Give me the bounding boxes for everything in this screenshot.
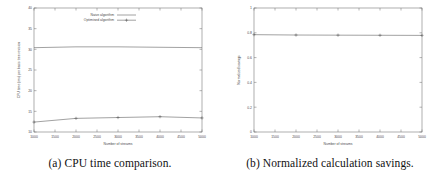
x-tick-label: 3500 (355, 135, 363, 139)
x-ticks-b (254, 8, 422, 132)
cpu-time-plot: 10152025303540 1000150020002500300035004… (10, 2, 210, 157)
series-marker (158, 115, 161, 118)
x-tick-label: 2500 (93, 135, 101, 139)
series-marker (32, 120, 35, 123)
y-tick-label: 15 (28, 110, 32, 114)
chart-a-content: 10152025303540 1000150020002500300035004… (17, 6, 206, 146)
series-marker (336, 34, 339, 37)
x-tick-label: 4000 (376, 135, 384, 139)
x-axis-title: Number of streams (324, 142, 353, 146)
x-tick-label: 2000 (72, 135, 80, 139)
cpu-time-chart-svg: 10152025303540 1000150020002500300035004… (10, 2, 210, 157)
y-tick-label: 20 (28, 89, 32, 93)
x-tick-label: 3500 (135, 135, 143, 139)
series-group-b (252, 33, 423, 37)
y-axis-title: CPU time (ms) per basis tree revision (17, 42, 21, 98)
x-tick-label: 3000 (114, 135, 122, 139)
y-tick-label: 0.6 (247, 56, 252, 60)
series-marker (420, 34, 423, 37)
x-tick-label: 4500 (177, 135, 185, 139)
savings-plot: 00.20.40.60.81 1000150020002500300035004… (230, 2, 430, 157)
plot-frame (34, 8, 202, 132)
series-group-a (32, 47, 203, 124)
savings-chart-svg: 00.20.40.60.81 1000150020002500300035004… (230, 2, 430, 157)
x-tick-label: 1500 (271, 135, 279, 139)
y-tick-label: 0.8 (247, 31, 252, 35)
x-tick-label: 5000 (418, 135, 426, 139)
x-tick-label: 3000 (334, 135, 342, 139)
series-marker (294, 33, 297, 36)
y-ticks-a (34, 8, 202, 132)
x-tick-label: 1000 (30, 135, 38, 139)
x-tick-label: 1500 (51, 135, 59, 139)
x-ticks-a (34, 8, 202, 132)
y-tick-label: 25 (28, 68, 32, 72)
y-ticklabels-a: 10152025303540 (28, 6, 32, 134)
y-axis-title: Normalized savings (237, 55, 241, 85)
x-tick-label: 1000 (250, 135, 258, 139)
series-marker (74, 117, 77, 120)
x-tick-label: 4500 (397, 135, 405, 139)
x-tick-label: 2500 (313, 135, 321, 139)
y-tick-label: 0.4 (247, 81, 252, 85)
x-ticklabels-b: 100015002000250030003500400045005000 (250, 135, 426, 139)
subfigure-caption-b: (b) Normalized calculation savings. (246, 156, 414, 170)
legend-a: Naive algorithmOptimised algorithm (84, 13, 136, 22)
x-tick-label: 2000 (292, 135, 300, 139)
x-axis-title: Number of streams (104, 142, 133, 146)
y-tick-label: 40 (28, 6, 32, 10)
y-ticklabels-b: 00.20.40.60.81 (247, 6, 252, 134)
series-marker (116, 116, 119, 119)
y-ticks-b (254, 8, 422, 132)
series-marker (252, 33, 255, 36)
y-tick-label: 1 (250, 6, 252, 10)
plot-frame (254, 8, 422, 132)
y-tick-label: 0.2 (247, 106, 252, 110)
x-tick-label: 5000 (198, 135, 206, 139)
series-marker (200, 116, 203, 119)
x-tick-label: 4000 (156, 135, 164, 139)
legend-label: Optimised algorithm (84, 18, 114, 22)
x-ticklabels-a: 100015002000250030003500400045005000 (30, 135, 206, 139)
chart-b-content: 00.20.40.60.81 1000150020002500300035004… (237, 6, 426, 146)
y-tick-label: 30 (28, 48, 32, 52)
subfigure-caption-a: (a) CPU time comparison. (48, 156, 171, 170)
series-line-0 (34, 47, 202, 48)
y-tick-label: 35 (28, 27, 32, 31)
legend-label: Naive algorithm (90, 13, 114, 17)
figure-row: 10152025303540 1000150020002500300035004… (0, 0, 440, 185)
subfigure-a: 10152025303540 1000150020002500300035004… (0, 0, 220, 185)
subfigure-b: 00.20.40.60.81 1000150020002500300035004… (220, 0, 440, 185)
series-marker (378, 34, 381, 37)
